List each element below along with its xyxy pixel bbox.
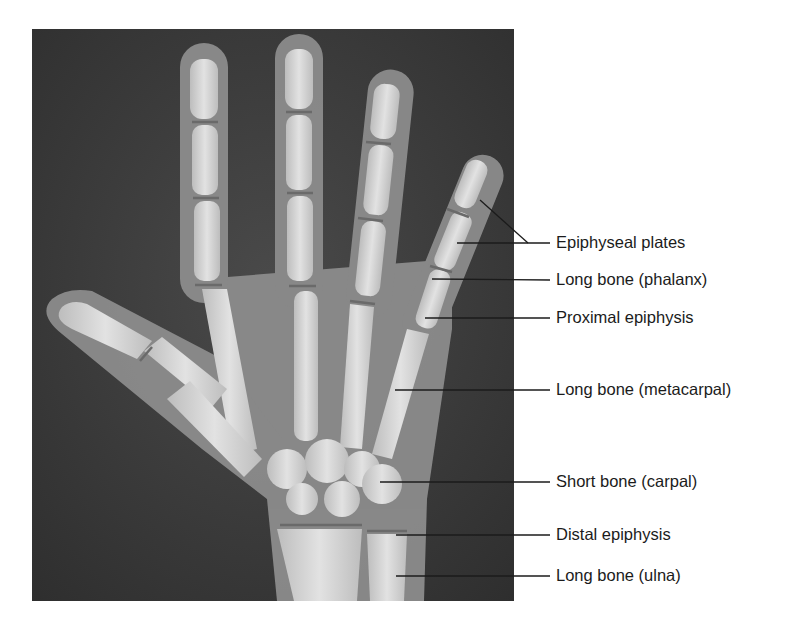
label-proximal-epiphysis: Proximal epiphysis bbox=[556, 309, 694, 326]
hand-xray-image bbox=[32, 29, 514, 601]
label-epiphyseal-plates: Epiphyseal plates bbox=[556, 234, 685, 251]
label-long-bone-metacarpal: Long bone (metacarpal) bbox=[556, 381, 731, 398]
label-distal-epiphysis: Distal epiphysis bbox=[556, 526, 671, 543]
label-long-bone-ulna: Long bone (ulna) bbox=[556, 567, 681, 584]
label-short-bone-carpal: Short bone (carpal) bbox=[556, 473, 697, 490]
label-long-bone-phalanx: Long bone (phalanx) bbox=[556, 271, 707, 288]
